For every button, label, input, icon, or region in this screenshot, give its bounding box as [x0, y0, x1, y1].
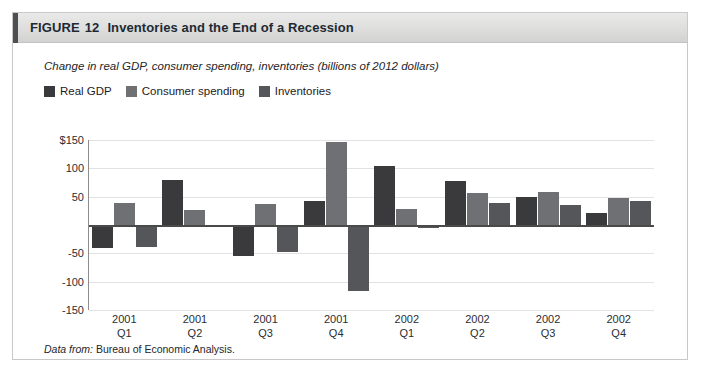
y-axis-labels: $15010050-50-100-150: [42, 140, 84, 310]
y-tick-label: 50: [44, 191, 84, 203]
legend-swatch-icon: [44, 86, 55, 97]
bar: [136, 225, 157, 247]
figure-title: Inventories and the End of a Recession: [107, 20, 354, 35]
bar: [304, 201, 325, 225]
figure-header-text: FIGURE12Inventories and the End of a Rec…: [30, 20, 354, 35]
x-tick-label: 2001Q3: [231, 313, 301, 340]
bar: [184, 210, 205, 225]
bar: [560, 205, 581, 225]
x-tick-label: 2001Q4: [301, 313, 371, 340]
gridline: [89, 168, 654, 169]
x-tick-quarter: Q3: [513, 327, 583, 341]
y-tick-label: 100: [44, 162, 84, 174]
figure-header-band: FIGURE12Inventories and the End of a Rec…: [13, 13, 687, 43]
x-tick-quarter: Q1: [89, 327, 159, 341]
x-tick-quarter: Q4: [584, 327, 654, 341]
legend-label: Inventories: [275, 85, 331, 97]
bar: [467, 193, 488, 225]
bar: [326, 142, 347, 225]
legend-item-real-gdp: Real GDP: [44, 85, 112, 97]
x-tick-label: 2002Q4: [584, 313, 654, 340]
bar: [489, 203, 510, 225]
x-tick-quarter: Q2: [160, 327, 230, 341]
bar: [277, 225, 298, 252]
source-text: Bureau of Economic Analysis.: [96, 343, 235, 355]
gridline: [89, 253, 654, 254]
x-tick-year: 2002: [372, 313, 442, 327]
bar: [396, 209, 417, 225]
x-tick-year: 2001: [231, 313, 301, 327]
bar: [586, 213, 607, 225]
bar: [114, 203, 135, 225]
chart-legend: Real GDPConsumer spendingInventories: [44, 85, 331, 97]
x-tick-label: 2002Q1: [372, 313, 442, 340]
x-tick-year: 2001: [301, 313, 371, 327]
bar: [92, 225, 113, 248]
y-tick-label: -150: [44, 304, 84, 316]
y-tick-label: -100: [44, 276, 84, 288]
header-accent-bar: [13, 13, 18, 43]
bar: [630, 201, 651, 225]
bar: [608, 198, 629, 225]
x-tick-label: 2002Q2: [442, 313, 512, 340]
bar: [348, 225, 369, 291]
gridline: [89, 310, 654, 311]
x-tick-label: 2001Q2: [160, 313, 230, 340]
x-tick-quarter: Q4: [301, 327, 371, 341]
x-tick-year: 2002: [584, 313, 654, 327]
x-tick-label: 2002Q3: [513, 313, 583, 340]
x-tick-quarter: Q2: [442, 327, 512, 341]
legend-swatch-icon: [259, 86, 270, 97]
x-tick-label: 2001Q1: [89, 313, 159, 340]
zero-axis-line: [89, 225, 654, 227]
y-tick-label: -50: [44, 247, 84, 259]
source-note: Data from: Bureau of Economic Analysis.: [44, 343, 235, 355]
bar: [374, 166, 395, 226]
bar: [255, 204, 276, 225]
plot-area: [89, 140, 654, 310]
legend-item-inventories: Inventories: [259, 85, 331, 97]
legend-label: Real GDP: [60, 85, 112, 97]
x-tick-quarter: Q1: [372, 327, 442, 341]
bar: [538, 192, 559, 225]
figure-number: 12: [85, 20, 100, 35]
x-tick-year: 2001: [160, 313, 230, 327]
x-tick-year: 2002: [442, 313, 512, 327]
legend-swatch-icon: [126, 86, 137, 97]
gridline: [89, 140, 654, 141]
figure-label: FIGURE: [30, 20, 80, 35]
source-label: Data from:: [44, 343, 93, 355]
x-tick-year: 2002: [513, 313, 583, 327]
chart-subtitle: Change in real GDP, consumer spending, i…: [44, 60, 439, 72]
bar: [162, 180, 183, 225]
figure-card: FIGURE12Inventories and the End of a Rec…: [12, 12, 688, 360]
bar: [516, 197, 537, 225]
x-axis-labels: 2001Q12001Q22001Q32001Q42002Q12002Q22002…: [89, 313, 654, 347]
legend-label: Consumer spending: [142, 85, 245, 97]
x-tick-year: 2001: [89, 313, 159, 327]
bar: [233, 225, 254, 256]
x-tick-quarter: Q3: [231, 327, 301, 341]
y-tick-label: $150: [44, 134, 84, 146]
gridline: [89, 282, 654, 283]
bar: [445, 181, 466, 225]
legend-item-consumer-spending: Consumer spending: [126, 85, 245, 97]
